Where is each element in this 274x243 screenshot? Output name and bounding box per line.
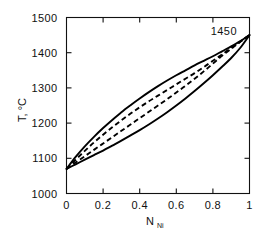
phase-diagram-figure: 100011001200130014001500 00.20.40.60.81 … bbox=[0, 0, 274, 243]
phase-diagram-svg: 100011001200130014001500 00.20.40.60.81 … bbox=[0, 0, 274, 243]
annotation-label: 1450 bbox=[211, 25, 237, 37]
x-axis-title-text: N bbox=[146, 215, 154, 227]
x-tick-label: 0.2 bbox=[95, 199, 112, 211]
x-tick-label: 0 bbox=[63, 199, 70, 211]
x-tick-label: 0.8 bbox=[205, 199, 222, 211]
y-axis-title: T, °C bbox=[16, 98, 28, 122]
y-axis-title-text: T, °C bbox=[16, 98, 28, 122]
x-tick-label: 1 bbox=[246, 199, 253, 211]
chart-annotations: 1450 bbox=[211, 25, 237, 37]
y-tick-label: 1400 bbox=[31, 47, 57, 59]
y-tick-label: 1300 bbox=[31, 82, 57, 94]
x-tick-label: 0.6 bbox=[168, 199, 185, 211]
x-axis-title-subscript: Ni bbox=[157, 222, 164, 229]
y-tick-label: 1100 bbox=[32, 152, 57, 164]
y-tick-label: 1000 bbox=[31, 188, 57, 200]
y-tick-label: 1200 bbox=[31, 117, 57, 129]
x-tick-label: 0.4 bbox=[131, 199, 148, 211]
y-tick-label: 1500 bbox=[31, 12, 57, 24]
